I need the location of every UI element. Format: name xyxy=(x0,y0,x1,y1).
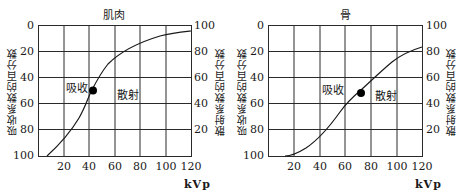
x-tick: 120 xyxy=(409,161,435,172)
y-tick-right: 20 xyxy=(194,124,220,135)
x-tick: 60 xyxy=(102,161,128,172)
y-tick-left: 100 xyxy=(10,150,34,161)
bone-chart: 骨 吸收系数的百分数 散射系数的百分数 0 20 40 60 80 100 10… xyxy=(230,0,460,194)
y-tick-left: 20 xyxy=(240,46,264,57)
y-tick-right: 100 xyxy=(426,20,452,31)
scatter-region-label: 散射 xyxy=(375,87,397,103)
y-tick-left: 40 xyxy=(240,72,264,83)
scatter-region-label: 散射 xyxy=(117,86,139,102)
x-tick: 40 xyxy=(76,161,102,172)
y-tick-right: 80 xyxy=(426,46,452,57)
left-axis-label: 吸收系数的百分数 xyxy=(234,48,249,136)
y-tick-left: 80 xyxy=(10,124,34,135)
x-tick: 20 xyxy=(281,161,307,172)
x-axis-unit: kVp xyxy=(184,178,211,191)
right-axis-label: 散射系数的百分数 xyxy=(443,48,458,136)
crossover-marker xyxy=(89,87,97,95)
y-tick-left: 20 xyxy=(10,46,34,57)
y-tick-right: 60 xyxy=(194,72,220,83)
x-tick: 60 xyxy=(332,161,358,172)
y-tick-left: 0 xyxy=(10,20,34,31)
right-axis-label: 散射系数的百分数 xyxy=(212,48,227,136)
y-tick-right: 40 xyxy=(194,98,220,109)
y-tick-right: 80 xyxy=(194,46,220,57)
y-tick-left: 100 xyxy=(240,150,264,161)
y-tick-left: 60 xyxy=(240,98,264,109)
y-tick-left: 80 xyxy=(240,124,264,135)
y-tick-right: 40 xyxy=(426,98,452,109)
grid xyxy=(38,25,192,157)
x-tick: 20 xyxy=(51,161,77,172)
y-tick-left: 60 xyxy=(10,98,34,109)
y-tick-right: 60 xyxy=(426,72,452,83)
x-tick: 40 xyxy=(307,161,333,172)
absorption-scatter-curve xyxy=(285,47,422,156)
x-tick: 80 xyxy=(127,161,153,172)
x-tick: 80 xyxy=(358,161,384,172)
y-tick-left: 40 xyxy=(10,72,34,83)
x-tick: 100 xyxy=(384,161,410,172)
x-tick: 120 xyxy=(178,161,204,172)
crossover-marker xyxy=(357,89,365,97)
x-tick: 100 xyxy=(153,161,179,172)
absorption-region-label: 吸收 xyxy=(322,81,344,97)
x-axis-unit: kVp xyxy=(415,178,442,191)
y-tick-right: 100 xyxy=(194,20,220,31)
left-axis-label: 吸收系数的百分数 xyxy=(4,48,19,136)
grid xyxy=(268,25,423,157)
muscle-chart: 肌肉 吸收系数的百分数 散射系数的百分数 0 20 40 60 80 100 1… xyxy=(0,0,230,194)
y-tick-right: 20 xyxy=(426,124,452,135)
absorption-region-label: 吸收 xyxy=(66,79,88,95)
y-tick-left: 0 xyxy=(240,20,264,31)
